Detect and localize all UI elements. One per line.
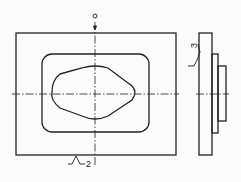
drawing-canvas: 3 2 (0, 0, 241, 182)
side-step-2 (218, 66, 226, 121)
arrow-icon (94, 26, 97, 30)
roughness-label-side: 3 (189, 43, 199, 48)
roughness-label-bottom: 2 (86, 159, 91, 169)
marker-circle (93, 14, 97, 18)
roughness-symbol-side: 3 (188, 43, 200, 66)
side-step-1 (212, 54, 218, 133)
hexagonal-cavity (52, 66, 135, 119)
roughness-icon (68, 156, 85, 164)
roughness-symbol-bottom: 2 (68, 156, 91, 169)
